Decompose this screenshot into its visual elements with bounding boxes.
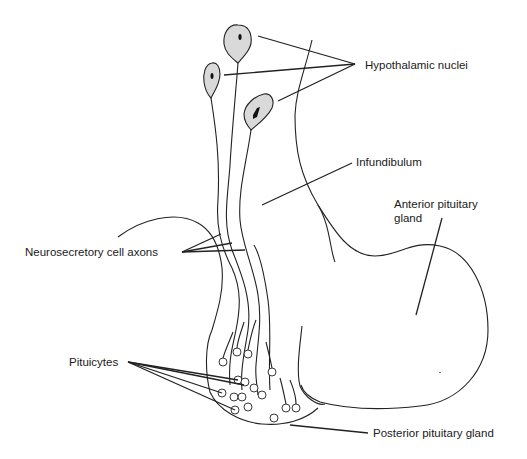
label-neurosecretory-axons: Neurosecretory cell axons — [25, 245, 158, 259]
leader-lines — [128, 36, 442, 433]
neuron-cell-top — [224, 25, 251, 63]
label-posterior-pituitary: Posterior pituitary gland — [373, 426, 494, 440]
hypothalamic-neurons — [204, 25, 273, 130]
label-anterior-pituitary-line2: gland — [394, 211, 422, 225]
neuron-cell-left — [204, 63, 220, 98]
infundibulum-outline — [295, 40, 335, 262]
label-anterior-pituitary-line1: Anterior pituitary — [394, 197, 478, 211]
label-hypothalamic-nuclei: Hypothalamic nuclei — [365, 58, 468, 72]
label-pituicytes: Pituicytes — [69, 355, 118, 369]
neurosecretory-axons — [118, 40, 335, 395]
label-infundibulum: Infundibulum — [356, 155, 422, 169]
